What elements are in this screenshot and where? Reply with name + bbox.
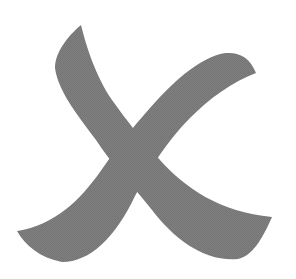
x-mark-icon: [0, 0, 296, 279]
x-mark-canvas: [0, 0, 296, 279]
